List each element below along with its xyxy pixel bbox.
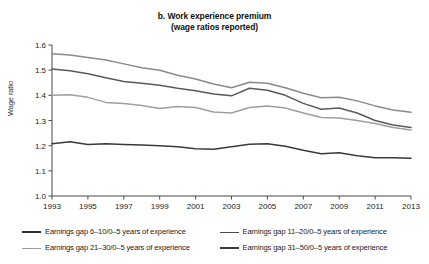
x-tick-label: 2013: [402, 202, 420, 211]
y-tick-label: 1.3: [35, 117, 47, 126]
x-tick-label: 1997: [115, 202, 133, 211]
x-tick-label: 1993: [43, 202, 61, 211]
y-tick-label: 1.2: [35, 142, 47, 151]
legend-label-2: Earnings gap 21–30/0–5 years of experien…: [45, 243, 190, 253]
series-line-1: [52, 69, 411, 128]
legend-label-1: Earnings gap 11–20/0–5 years of experien…: [243, 227, 387, 237]
series-line-0: [52, 54, 411, 112]
legend-item-1[interactable]: Earnings gap 11–20/0–5 years of experien…: [220, 224, 416, 240]
y-tick-label: 1.1: [35, 167, 47, 176]
series-line-3: [52, 142, 411, 159]
legend-swatch-line-icon-2: [22, 248, 41, 249]
legend-swatch-line-icon-1: [220, 232, 239, 233]
x-tick-label: 2005: [259, 202, 277, 211]
y-tick-label: 1.4: [35, 91, 47, 100]
x-tick-label: 1999: [151, 202, 169, 211]
plot-area: Wage ratio 1.01.11.21.31.41.51.619931995…: [0, 0, 429, 222]
legend-label-0: Earnings gap 6–10/0–5 years of experienc…: [45, 227, 186, 237]
legend-swatch-line-icon-0: [22, 231, 41, 233]
chart-figure: b. Work experience premium (wage ratios …: [0, 0, 429, 264]
x-tick-label: 2003: [223, 202, 241, 211]
x-tick-label: 2001: [187, 202, 205, 211]
chart-legend: Earnings gap 6–10/0–5 years of experienc…: [0, 224, 429, 258]
y-tick-label: 1.5: [35, 66, 47, 75]
legend-item-2[interactable]: Earnings gap 21–30/0–5 years of experien…: [22, 240, 218, 256]
x-tick-label: 2011: [366, 202, 384, 211]
line-chart-svg: 1.01.11.21.31.41.51.61993199519971999200…: [0, 0, 429, 222]
legend-swatch-line-icon-3: [220, 247, 239, 249]
y-axis-title: Wage ratio: [6, 67, 15, 131]
y-tick-label: 1.6: [35, 41, 47, 50]
x-tick-label: 2009: [330, 202, 348, 211]
x-tick-label: 1995: [79, 202, 97, 211]
x-tick-label: 2007: [294, 202, 312, 211]
legend-item-0[interactable]: Earnings gap 6–10/0–5 years of experienc…: [22, 224, 218, 240]
legend-label-3: Earnings gap 31–50/0–5 years of experien…: [243, 243, 388, 253]
y-tick-label: 1.0: [35, 192, 47, 201]
legend-item-3[interactable]: Earnings gap 31–50/0–5 years of experien…: [220, 240, 416, 256]
